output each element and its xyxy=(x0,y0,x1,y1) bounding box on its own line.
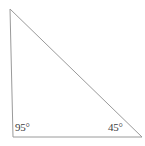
triangle-figure: 95° 45° xyxy=(0,0,145,146)
angle-label-bottom-right: 45° xyxy=(108,122,123,133)
triangle-outline xyxy=(10,9,142,137)
angle-label-bottom-left: 95° xyxy=(15,122,30,133)
